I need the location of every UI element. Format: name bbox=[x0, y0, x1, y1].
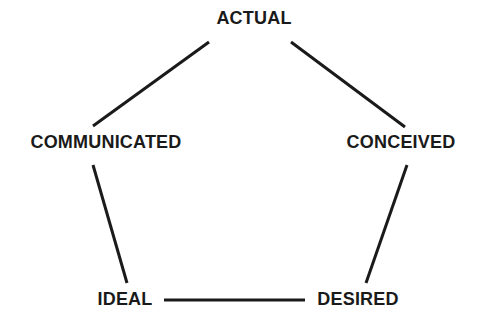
edge-actual-conceived bbox=[291, 42, 405, 127]
pentagon-diagram: ACTUAL COMMUNICATED CONCEIVED IDEAL DESI… bbox=[0, 0, 481, 324]
edge-communicated-ideal bbox=[93, 165, 127, 283]
edge-conceived-desired bbox=[366, 165, 407, 283]
node-label-communicated: COMMUNICATED bbox=[30, 133, 181, 151]
edge-communicated-actual bbox=[93, 42, 209, 126]
node-label-conceived: CONCEIVED bbox=[347, 133, 456, 151]
node-label-desired: DESIRED bbox=[317, 290, 398, 308]
node-label-actual: ACTUAL bbox=[216, 9, 291, 27]
node-label-ideal: IDEAL bbox=[98, 290, 153, 308]
pentagon-edge-layer bbox=[0, 0, 481, 324]
